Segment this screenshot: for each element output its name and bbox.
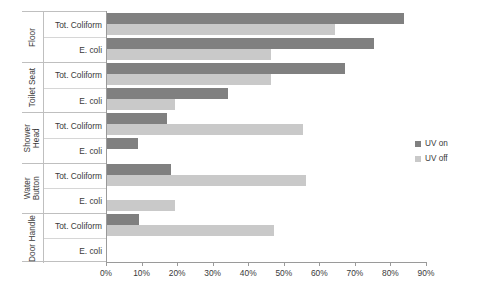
legend-label: UV on xyxy=(425,139,448,148)
group-label-text: Water Button xyxy=(23,176,41,200)
subcategory-label-tot-coliform: Tot. Coliform xyxy=(44,214,106,239)
bar-uv-off-floor-e-coli[interactable] xyxy=(107,49,271,60)
bar-slot-door-handle-tot-coliform xyxy=(107,212,426,237)
group-label-text: Door Handle xyxy=(28,215,37,262)
x-axis-tick xyxy=(426,262,427,266)
bar-chart: Floor Tot. Coliform E. coli Toilet Seat … xyxy=(0,0,499,299)
x-axis-tick-label: 40% xyxy=(228,268,268,278)
subcategory-label-e-coli: E. coli xyxy=(44,37,106,62)
bar-slot-toilet-seat-e-coli xyxy=(107,86,426,111)
subcategory-label-tot-coliform: Tot. Coliform xyxy=(44,12,106,37)
legend-label: UV off xyxy=(425,154,448,163)
x-axis-tick xyxy=(177,262,178,266)
group-label-text: Shower Head xyxy=(23,124,41,152)
x-axis-tick xyxy=(213,262,214,266)
bar-slot-water-button-tot-coliform xyxy=(107,162,426,187)
legend-swatch-icon xyxy=(415,156,421,162)
category-axis: Floor Tot. Coliform E. coli Toilet Seat … xyxy=(22,11,106,262)
bar-slot-toilet-seat-tot-coliform xyxy=(107,61,426,86)
category-group-floor: Floor Tot. Coliform E. coli xyxy=(22,12,106,62)
bar-slot-shower-head-e-coli xyxy=(107,136,426,161)
subcategory-label-e-coli: E. coli xyxy=(44,188,106,213)
subcategory-labels: Tot. Coliform E. coli xyxy=(44,164,106,213)
legend-item-uv-off[interactable]: UV off xyxy=(415,151,497,166)
subcategory-labels: Tot. Coliform E. coli xyxy=(44,12,106,62)
legend-swatch-icon xyxy=(415,141,421,147)
bar-uv-on-floor-e-coli[interactable] xyxy=(107,38,374,49)
subcategory-label-tot-coliform: Tot. Coliform xyxy=(44,113,106,138)
group-label-toilet-seat: Toilet Seat xyxy=(22,63,44,112)
subcategory-label-e-coli: E. coli xyxy=(44,238,106,263)
bar-uv-off-toilet-seat-e-coli[interactable] xyxy=(107,99,175,110)
x-axis-tick xyxy=(355,262,356,266)
bar-uv-off-water-button-tot-coliform[interactable] xyxy=(107,175,306,186)
bar-uv-off-water-button-e-coli[interactable] xyxy=(107,200,175,211)
x-axis-tick-label: 90% xyxy=(406,268,446,278)
bar-uv-on-shower-head-e-coli[interactable] xyxy=(107,138,138,149)
x-axis-tick xyxy=(106,262,107,266)
bar-uv-on-toilet-seat-tot-coliform[interactable] xyxy=(107,63,345,74)
value-axis: 0%10%20%30%40%50%60%70%80%90% xyxy=(106,262,426,263)
x-axis-tick-label: 30% xyxy=(193,268,233,278)
legend-item-uv-on[interactable]: UV on xyxy=(415,136,497,151)
subcategory-label-tot-coliform: Tot. Coliform xyxy=(44,164,106,189)
bar-slot-shower-head-tot-coliform xyxy=(107,111,426,136)
subcategory-labels: Tot. Coliform E. coli xyxy=(44,214,106,263)
bar-slot-water-button-e-coli xyxy=(107,187,426,212)
bar-uv-on-door-handle-tot-coliform[interactable] xyxy=(107,214,139,225)
x-axis-tick-label: 70% xyxy=(335,268,375,278)
subcategory-label-tot-coliform: Tot. Coliform xyxy=(44,63,106,88)
bar-slot-floor-e-coli xyxy=(107,36,426,61)
x-axis-tick-label: 60% xyxy=(299,268,339,278)
group-label-floor: Floor xyxy=(22,12,44,62)
plot-group-water-button xyxy=(107,162,426,212)
group-label-text: Floor xyxy=(28,28,37,47)
bar-slot-door-handle-e-coli xyxy=(107,237,426,262)
subcategory-label-e-coli: E. coli xyxy=(44,88,106,113)
legend: UV on UV off xyxy=(415,136,497,166)
x-axis-tick xyxy=(248,262,249,266)
x-axis-tick-label: 80% xyxy=(370,268,410,278)
plot-area xyxy=(106,11,426,262)
group-label-shower-head: Shower Head xyxy=(22,113,44,162)
x-axis-tick-label: 10% xyxy=(122,268,162,278)
x-axis-tick xyxy=(390,262,391,266)
x-axis-tick xyxy=(284,262,285,266)
group-label-door-handle: Door Handle xyxy=(22,214,44,263)
plot-group-floor xyxy=(107,11,426,61)
x-axis-tick-label: 20% xyxy=(157,268,197,278)
bar-uv-off-floor-tot-coliform[interactable] xyxy=(107,24,335,35)
category-group-toilet-seat: Toilet Seat Tot. Coliform E. coli xyxy=(22,62,106,112)
bar-uv-on-toilet-seat-e-coli[interactable] xyxy=(107,88,228,99)
bar-uv-off-door-handle-tot-coliform[interactable] xyxy=(107,225,274,236)
subcategory-labels: Tot. Coliform E. coli xyxy=(44,63,106,112)
category-group-water-button: Water Button Tot. Coliform E. coli xyxy=(22,163,106,213)
group-label-text: Toilet Seat xyxy=(28,68,37,107)
x-axis-tick-label: 0% xyxy=(86,268,126,278)
x-axis-tick xyxy=(319,262,320,266)
subcategory-label-e-coli: E. coli xyxy=(44,138,106,163)
bar-uv-on-shower-head-tot-coliform[interactable] xyxy=(107,113,167,124)
bar-uv-off-toilet-seat-tot-coliform[interactable] xyxy=(107,74,271,85)
category-group-shower-head: Shower Head Tot. Coliform E. coli xyxy=(22,112,106,162)
bar-slot-floor-tot-coliform xyxy=(107,11,426,36)
x-axis-tick-label: 50% xyxy=(264,268,304,278)
bar-uv-on-water-button-tot-coliform[interactable] xyxy=(107,164,171,175)
bar-uv-on-floor-tot-coliform[interactable] xyxy=(107,13,404,24)
category-group-door-handle: Door Handle Tot. Coliform E. coli xyxy=(22,213,106,263)
plot-group-shower-head xyxy=(107,111,426,161)
plot-group-door-handle xyxy=(107,212,426,262)
group-label-water-button: Water Button xyxy=(22,164,44,213)
x-axis-tick xyxy=(142,262,143,266)
plot-group-toilet-seat xyxy=(107,61,426,111)
subcategory-labels: Tot. Coliform E. coli xyxy=(44,113,106,162)
bar-uv-off-shower-head-tot-coliform[interactable] xyxy=(107,124,303,135)
